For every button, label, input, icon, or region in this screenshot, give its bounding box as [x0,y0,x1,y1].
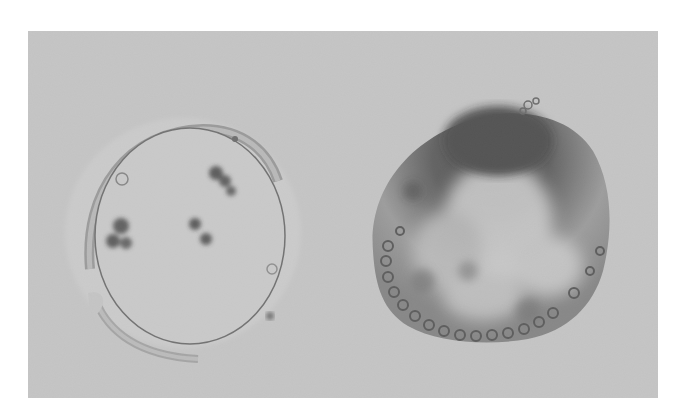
micrograph-drawing [28,31,658,398]
micrograph [28,31,658,398]
